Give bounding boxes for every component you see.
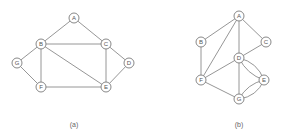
- node-A: A: [69, 13, 79, 23]
- node-label: G: [237, 96, 242, 102]
- graph-figure: ABCDGFE (a) ABCDEFG (b): [0, 0, 286, 137]
- node-F: F: [36, 82, 46, 92]
- node-B: B: [36, 39, 46, 49]
- node-C: C: [101, 39, 111, 49]
- graph-b: ABCDEFG (b): [196, 11, 271, 129]
- edge-A-C: [239, 16, 266, 42]
- node-label: F: [199, 77, 203, 83]
- node-B: B: [196, 37, 206, 47]
- node-label: D: [127, 60, 132, 66]
- graph-a-edges: [17, 18, 129, 87]
- node-label: F: [39, 84, 43, 90]
- graph-a: ABCDGFE (a): [12, 13, 134, 129]
- node-label: C: [104, 41, 109, 47]
- edge-A-F: [201, 16, 239, 80]
- node-E: E: [101, 82, 111, 92]
- node-label: G: [15, 60, 20, 66]
- node-G: G: [234, 94, 244, 104]
- edge-B-E: [41, 44, 106, 87]
- edge-A-C: [74, 18, 106, 44]
- node-F: F: [196, 75, 206, 85]
- node-C: C: [261, 37, 271, 47]
- edge-D-F: [201, 58, 239, 80]
- graph-b-caption: (b): [235, 121, 244, 129]
- node-label: B: [199, 39, 203, 45]
- node-label: A: [72, 15, 76, 21]
- node-D: D: [234, 53, 244, 63]
- node-label: B: [39, 41, 43, 47]
- edge-F-G: [201, 80, 239, 99]
- node-D: D: [124, 58, 134, 68]
- node-E: E: [259, 75, 269, 85]
- node-label: E: [262, 77, 266, 83]
- node-G: G: [12, 58, 22, 68]
- node-A: A: [234, 11, 244, 21]
- node-label: A: [237, 13, 241, 19]
- node-label: D: [237, 55, 242, 61]
- edge-A-B: [41, 18, 74, 44]
- graph-a-caption: (a): [70, 121, 79, 129]
- node-label: E: [104, 84, 108, 90]
- node-label: C: [264, 39, 269, 45]
- edge-A-B: [201, 16, 239, 42]
- graph-b-edges: [201, 16, 266, 99]
